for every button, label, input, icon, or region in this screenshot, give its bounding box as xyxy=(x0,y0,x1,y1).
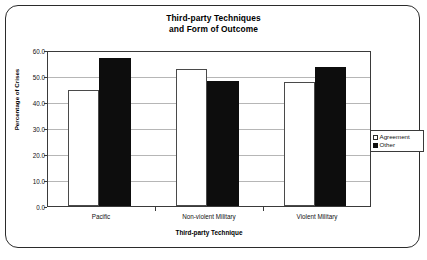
bar-pacific-agreement[interactable] xyxy=(68,90,99,206)
y-tick-mark-0 xyxy=(44,207,47,208)
chart-title-line-2: and Form of Outcome xyxy=(0,24,427,35)
filled-square-icon xyxy=(373,143,378,148)
plot-area xyxy=(47,51,371,207)
x-cat-label-pacific: Pacific xyxy=(47,213,155,220)
chart-title: Third-party Techniques and Form of Outco… xyxy=(0,13,427,34)
y-tick-label-10: 10.0 xyxy=(5,179,45,185)
legend-label-other: Other xyxy=(380,142,395,148)
y-tick-label-0: 0.0 xyxy=(5,205,45,211)
legend-label-agreement: Agreement xyxy=(380,134,410,140)
open-square-icon xyxy=(373,135,378,140)
y-tick-label-30: 30.0 xyxy=(5,127,45,133)
chart-legend[interactable]: Agreement Other xyxy=(370,130,424,152)
y-tick-label-60: 60.0 xyxy=(5,49,45,55)
x-cat-label-violent-military: Violent Military xyxy=(263,213,371,220)
y-tick-label-20: 20.0 xyxy=(5,153,45,159)
legend-item-agreement[interactable]: Agreement xyxy=(373,133,422,141)
y-tick-label-50: 50.0 xyxy=(5,75,45,81)
bar-violent-military-agreement[interactable] xyxy=(284,82,315,206)
x-tick-mark-2 xyxy=(263,207,264,211)
bar-violent-military-other[interactable] xyxy=(315,67,346,206)
bar-nonviolent-military-other[interactable] xyxy=(207,81,239,206)
bar-pacific-other[interactable] xyxy=(99,58,131,206)
chart-title-line-1: Third-party Techniques xyxy=(0,13,427,24)
bar-nonviolent-military-agreement[interactable] xyxy=(176,69,207,206)
x-axis-title: Third-party Technique xyxy=(47,229,371,236)
x-tick-mark-1 xyxy=(155,207,156,211)
y-tick-label-40: 40.0 xyxy=(5,101,45,107)
x-cat-label-non-violent-military: Non-violent Military xyxy=(155,213,263,220)
y-axis-title: Percentage of Crises xyxy=(13,40,20,160)
legend-item-other[interactable]: Other xyxy=(373,141,422,149)
